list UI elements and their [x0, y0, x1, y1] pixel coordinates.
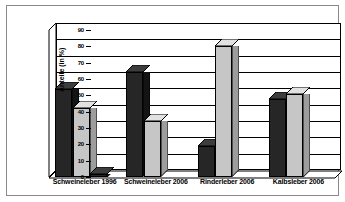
y-tick-label: 30: [78, 125, 84, 131]
x-axis-label-2: Schweineleber 2006: [124, 178, 188, 185]
bar-4-1: [269, 99, 286, 177]
y-tick: [86, 95, 91, 96]
bar-top-face: [215, 39, 239, 46]
bar-front-face: [286, 94, 303, 177]
x-axis-label-3: Rinderleber 2006: [200, 178, 254, 185]
y-tick: [86, 128, 91, 129]
x-axis-label-1: Schweineleber 1996: [53, 178, 117, 185]
y-axis: 0102030405060708090: [49, 22, 91, 178]
bar-front-face: [215, 46, 232, 177]
bar-top-face: [126, 65, 150, 72]
bar-2-1: [126, 72, 143, 177]
y-axis-title: Anteile (in %): [58, 48, 65, 92]
y-tick: [86, 161, 91, 162]
bar-2-2: [144, 121, 161, 177]
y-tick-label: 90: [78, 27, 84, 33]
bar-top-face: [144, 114, 168, 121]
x-axis-labels: Schweineleber 1996Schweineleber 2006Rind…: [13, 178, 345, 192]
y-tick-label: 70: [78, 60, 84, 66]
y-tick: [86, 46, 91, 47]
y-tick-label: 10: [78, 158, 84, 164]
y-tick-label: 50: [78, 92, 84, 98]
bar-top-face: [90, 167, 114, 174]
bar-1-3: [90, 174, 107, 177]
y-tick-label: 60: [78, 76, 84, 82]
y-tick: [86, 63, 91, 64]
bars-layer: [49, 30, 334, 177]
y-tick-label: 40: [78, 109, 84, 115]
bar-side-face: [232, 46, 239, 177]
x-axis-label-4: Kalbsleber 2006: [273, 178, 324, 185]
y-tick: [86, 112, 91, 113]
plot-area: 0102030405060708090 Anteile (in %): [49, 30, 334, 177]
y-tick-label: 20: [78, 141, 84, 147]
y-tick: [86, 79, 91, 80]
bar-front-face: [144, 121, 161, 177]
bar-top-face: [286, 87, 310, 94]
bar-front-face: [126, 72, 143, 177]
y-tick: [86, 30, 91, 31]
gridline: [56, 23, 341, 24]
bar-front-face: [90, 174, 107, 177]
bar-3-1: [198, 146, 215, 177]
bar-4-2: [286, 94, 303, 177]
y-tick-label: 80: [78, 43, 84, 49]
bar-side-face: [303, 94, 310, 177]
bar-front-face: [269, 99, 286, 177]
chart-screenshot: 0102030405060708090 Anteile (in %) Schwe…: [0, 0, 345, 202]
bar-side-face: [161, 121, 168, 177]
y-tick: [86, 144, 91, 145]
figure-frame: 0102030405060708090 Anteile (in %) Schwe…: [6, 5, 339, 196]
bar-front-face: [198, 146, 215, 177]
bar-3-2: [215, 46, 232, 177]
bar-side-face: [107, 174, 114, 177]
